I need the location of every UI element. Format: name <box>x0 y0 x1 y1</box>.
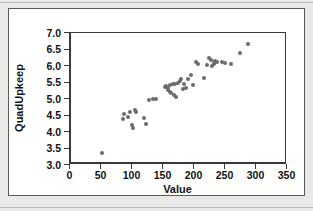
data-point <box>144 122 148 126</box>
data-point <box>142 116 146 120</box>
x-axis-title: Value <box>69 183 286 195</box>
x-axis-tick: 50 <box>100 164 101 169</box>
y-tick-label: 6.5 <box>46 44 61 55</box>
data-point <box>179 77 183 81</box>
data-point <box>186 77 190 81</box>
data-point <box>223 61 227 65</box>
data-point <box>202 76 206 80</box>
data-point <box>131 126 135 130</box>
data-point <box>121 117 125 121</box>
y-tick-label: 7.0 <box>46 27 61 38</box>
data-point <box>215 60 219 64</box>
y-tick-label: 5.5 <box>46 77 61 88</box>
x-axis-tick: 0 <box>69 164 70 169</box>
y-axis-title: QuadUpkeep <box>12 32 26 164</box>
data-point <box>196 62 200 66</box>
x-axis-tick: 350 <box>286 164 287 169</box>
data-point <box>154 97 158 101</box>
x-tick-label: 300 <box>247 170 265 181</box>
data-point <box>229 62 233 66</box>
chart-card: QuadUpkeep 3.03.54.04.55.05.56.06.57.0 0… <box>8 8 305 196</box>
top-divider <box>0 2 313 3</box>
data-point <box>189 73 193 77</box>
scatter-points-layer <box>71 33 285 162</box>
x-axis-tick: 100 <box>131 164 132 169</box>
data-point <box>134 110 138 114</box>
x-axis-tick: 200 <box>193 164 194 169</box>
data-point <box>100 151 104 155</box>
data-point <box>246 42 250 46</box>
scatter-plot-screenshot: QuadUpkeep 3.03.54.04.55.05.56.06.57.0 0… <box>0 0 313 211</box>
data-point <box>238 51 242 55</box>
y-tick-label: 4.0 <box>46 126 61 137</box>
data-point <box>174 95 178 99</box>
x-tick-label: 200 <box>185 170 203 181</box>
y-axis-title-text: QuadUpkeep <box>13 64 25 132</box>
x-tick-label: 50 <box>95 170 107 181</box>
x-tick-label: 350 <box>278 170 296 181</box>
data-point <box>128 110 132 114</box>
x-axis-tick: 150 <box>162 164 163 169</box>
x-axis-tick: 300 <box>255 164 256 169</box>
y-tick-label: 5.0 <box>46 93 61 104</box>
x-tick-label: 0 <box>67 170 73 181</box>
data-point <box>184 86 188 90</box>
plot-area <box>69 32 286 164</box>
bottom-divider <box>0 207 313 208</box>
y-tick-label: 3.0 <box>46 159 61 170</box>
x-axis-tick: 250 <box>224 164 225 169</box>
data-point <box>126 115 130 119</box>
y-tick-label: 6.0 <box>46 60 61 71</box>
y-tick-label: 4.5 <box>46 110 61 121</box>
data-point <box>205 63 209 67</box>
data-point <box>191 83 195 87</box>
y-tick-label: 3.5 <box>46 143 61 154</box>
x-tick-label: 150 <box>154 170 172 181</box>
x-tick-label: 250 <box>216 170 234 181</box>
x-tick-label: 100 <box>123 170 141 181</box>
